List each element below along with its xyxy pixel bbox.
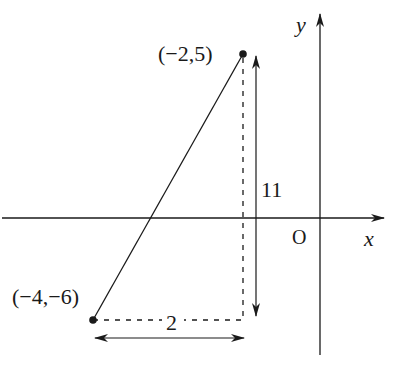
point-a-label: (−2,5) <box>158 41 213 66</box>
point-b <box>89 316 97 324</box>
point-b-label: (−4,−6) <box>12 284 79 309</box>
point-a <box>239 50 247 58</box>
vertical-distance-label: 11 <box>261 177 282 202</box>
coordinate-diagram: x y O (−2,5) (−4,−6) 11 2 <box>0 0 406 370</box>
x-axis-label: x <box>363 226 374 251</box>
origin-label: O <box>292 226 306 248</box>
y-axis-label: y <box>294 12 306 37</box>
segment-ab <box>93 54 243 320</box>
horizontal-distance-label: 2 <box>166 310 177 335</box>
